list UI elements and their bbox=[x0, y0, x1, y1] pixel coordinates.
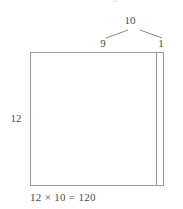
area-model-unit-strip bbox=[157, 53, 163, 185]
bond-part-left-label: 9 bbox=[96, 38, 110, 49]
bond-total-label: 10 bbox=[118, 15, 142, 26]
equation-label: 12 × 10 = 120 bbox=[30, 192, 96, 203]
area-model-height-label: 12 bbox=[6, 113, 26, 124]
clipped-glyph-top: 9 bbox=[108, 0, 122, 4]
bond-part-right-label: 1 bbox=[154, 38, 168, 49]
area-model-rectangle bbox=[30, 52, 164, 186]
area-model-main-region bbox=[31, 53, 157, 185]
bond-branch-left-line bbox=[106, 30, 128, 38]
math-area-model-figure: 9 10 9 1 12 12 × 10 = 120 bbox=[0, 0, 183, 209]
